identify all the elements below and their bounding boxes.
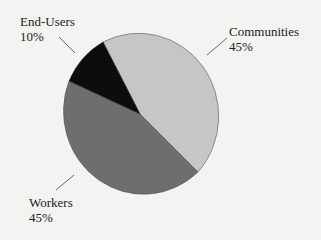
label-name: Communities: [229, 24, 299, 39]
label-name: Workers: [29, 195, 73, 210]
label-pct: 10%: [20, 29, 75, 44]
label-communities: Communities 45%: [229, 24, 299, 54]
label-end-users: End-Users 10%: [20, 14, 75, 44]
label-pct: 45%: [229, 39, 299, 54]
leader-workers: [55, 55, 74, 70]
label-pct: 45%: [29, 210, 73, 225]
label-name: End-Users: [20, 14, 75, 29]
leader-workers-line: [56, 175, 74, 190]
label-workers: Workers 45%: [29, 195, 73, 225]
leader-communities: [207, 38, 227, 55]
